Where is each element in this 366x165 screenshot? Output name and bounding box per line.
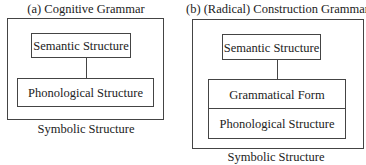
panel-b-caption: Symbolic Structure bbox=[186, 151, 366, 164]
panel-a-semantic-box: Semantic Structure bbox=[31, 33, 131, 58]
panel-a-caption: Symbolic Structure bbox=[0, 123, 172, 136]
panel-b-semantic-label: Semantic Structure bbox=[223, 42, 320, 55]
panel-a-phonological-label: Phonological Structure bbox=[18, 87, 153, 100]
panel-b-phonological-label: Phonological Structure bbox=[209, 118, 345, 131]
panel-a-phonological-box: Phonological Structure bbox=[17, 78, 154, 107]
panel-a-semantic-label: Semantic Structure bbox=[32, 40, 130, 53]
panel-b-divider bbox=[209, 108, 345, 109]
panel-b-title: (b) (Radical) Construction Grammar bbox=[186, 3, 366, 16]
panel-a-connector-line bbox=[86, 58, 87, 78]
panel-b-connector-line bbox=[277, 60, 278, 79]
panel-b-grammatical-label: Grammatical Form bbox=[209, 89, 345, 102]
panel-b-semantic-box: Semantic Structure bbox=[222, 34, 321, 60]
panel-b-form-box: Grammatical Form Phonological Structure bbox=[208, 79, 346, 139]
panel-a-title: (a) Cognitive Grammar bbox=[0, 3, 172, 16]
